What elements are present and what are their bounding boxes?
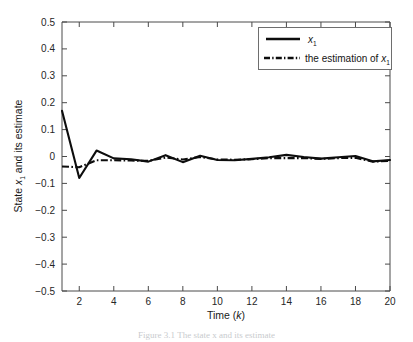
y-tick-label: 0.2 [41,97,55,108]
figure-caption: Figure 3.1 The state x and its estimate [0,330,413,340]
x-tick-label: 20 [384,296,396,307]
x-axis-label: Time (k) [207,309,245,321]
x-tick-label: 12 [246,296,258,307]
x-tick-label: 4 [111,296,117,307]
y-tick-label: −0.3 [35,232,55,243]
y-tick-label: 0.4 [41,43,55,54]
x-tick-label: 16 [315,296,327,307]
y-tick-label: 0.1 [41,124,55,135]
y-tick-label: 0 [49,151,55,162]
x-tick-label: 18 [350,296,362,307]
x-tick-label: 10 [212,296,224,307]
y-tick-label: −0.1 [35,178,55,189]
x-tick-label: 6 [146,296,152,307]
y-tick-label: −0.5 [35,286,55,297]
y-tick-label: −0.4 [35,259,55,270]
x-tick-label: 14 [281,296,293,307]
y-axis-label: State x1 and its estimate [12,99,26,212]
figure-container: −0.5−0.4−0.3−0.2−0.100.10.20.30.40.5 246… [0,0,413,342]
legend[interactable]: x1 the estimation of x1 [259,28,392,70]
y-tick-label: 0.3 [41,70,55,81]
x-tick-label: 2 [76,296,82,307]
line-chart: −0.5−0.4−0.3−0.2−0.100.10.20.30.40.5 246… [0,0,413,342]
y-tick-label: 0.5 [41,17,55,28]
figure-caption-strip: Figure 3.1 The state x and its estimate [0,330,413,342]
y-tick-label: −0.2 [35,205,55,216]
x-tick-label: 8 [180,296,186,307]
